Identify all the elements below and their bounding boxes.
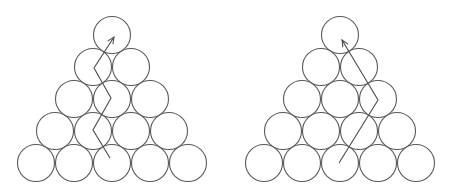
- circle: [170, 145, 207, 182]
- circle: [246, 145, 283, 182]
- circle: [322, 145, 359, 182]
- circle: [322, 17, 359, 54]
- circle: [94, 81, 131, 118]
- right-panel: [246, 17, 435, 182]
- circle: [360, 145, 397, 182]
- circle-stack-diagram: [0, 0, 455, 192]
- circle: [94, 145, 131, 182]
- circle: [265, 113, 302, 150]
- circle: [37, 113, 74, 150]
- circle: [113, 49, 150, 86]
- circle: [398, 145, 435, 182]
- circle: [56, 145, 93, 182]
- circle: [151, 113, 188, 150]
- circle: [284, 145, 321, 182]
- circle: [132, 145, 169, 182]
- circle: [56, 81, 93, 118]
- circle: [284, 81, 321, 118]
- circle: [379, 113, 416, 150]
- left-panel: [18, 17, 207, 182]
- circle: [94, 17, 131, 54]
- circle: [303, 113, 340, 150]
- circle: [322, 81, 359, 118]
- circle: [132, 81, 169, 118]
- circle: [113, 113, 150, 150]
- diagram-canvas: [0, 0, 455, 192]
- circle: [303, 49, 340, 86]
- circle: [341, 49, 378, 86]
- circle: [18, 145, 55, 182]
- circle: [75, 49, 112, 86]
